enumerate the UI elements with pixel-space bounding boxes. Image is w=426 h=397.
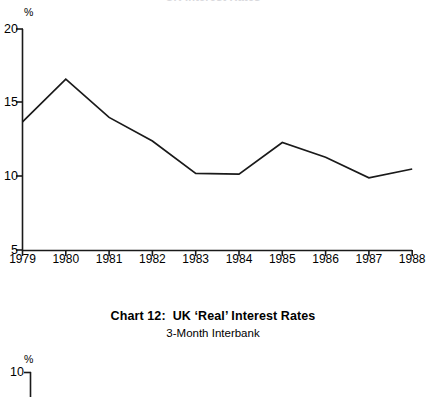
caption-title-text: UK ‘Real’ Interest Rates [173, 309, 316, 323]
x-tick-label-1983: 1983 [176, 252, 216, 266]
x-tick-label-1982: 1982 [132, 252, 172, 266]
chart-plot-area-lower [0, 352, 426, 397]
x-tick-label-1980: 1980 [46, 252, 86, 266]
chart-plot-area [0, 0, 426, 270]
y-tick-label-10: 10 [0, 169, 18, 183]
x-tick-label-1979: 1979 [3, 252, 43, 266]
data-series-line [23, 79, 413, 178]
x-tick-label-1985: 1985 [262, 252, 302, 266]
x-tick-label-1986: 1986 [306, 252, 346, 266]
caption-title-line: Chart 12:UK ‘Real’ Interest Rates [0, 309, 426, 323]
chart-nominal-interest-rates: % 20 15 10 5 1 [0, 0, 426, 270]
caption-chart-number: Chart 12: [111, 309, 166, 323]
y-tick-label-20: 20 [0, 22, 18, 36]
x-tick-label-1987: 1987 [349, 252, 389, 266]
chart-caption: Chart 12:UK ‘Real’ Interest Rates 3-Mont… [0, 309, 426, 339]
y-tick-label-15: 15 [0, 95, 18, 109]
x-tick-label-1981: 1981 [89, 252, 129, 266]
x-tick-label-1984: 1984 [219, 252, 259, 266]
caption-subtitle: 3-Month Interbank [0, 327, 426, 339]
chart-real-interest-rates-partial: % 10 [0, 352, 426, 397]
x-tick-label-1988: 1988 [392, 252, 426, 266]
